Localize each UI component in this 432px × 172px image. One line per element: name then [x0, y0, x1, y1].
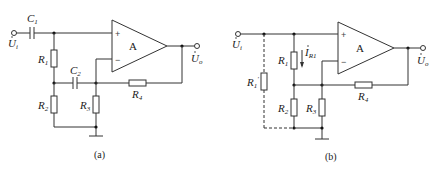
- input-terminal-a: [12, 31, 17, 36]
- resistor-r1-b: [291, 52, 297, 69]
- label-r3: R3: [79, 99, 91, 113]
- amp-label: A: [129, 40, 137, 52]
- label-r2: R2: [277, 102, 289, 116]
- resistor-r4-a: [129, 80, 146, 86]
- label-c1: C1: [27, 12, 38, 26]
- minus-sign: −: [115, 55, 120, 65]
- resistor-r2-a: [51, 96, 57, 113]
- amp-label: A: [356, 42, 364, 54]
- label-c2: C2: [70, 64, 81, 78]
- resistor-r2-b: [291, 99, 297, 116]
- opamp-b: [338, 22, 394, 74]
- current-arrow-icon: [300, 50, 304, 68]
- resistor-r1-a: [51, 50, 57, 67]
- label-r1: R1: [277, 54, 288, 68]
- output-terminal-b: [421, 46, 426, 51]
- resistor-r4-b: [355, 82, 372, 88]
- capacitor-c2: [73, 77, 77, 89]
- label-r1-prime: R1′: [246, 75, 259, 90]
- label-r2: R2: [37, 99, 49, 113]
- capacitor-c1: [30, 27, 34, 39]
- label-output: Uo: [191, 52, 203, 66]
- resistor-r3-b: [319, 99, 325, 116]
- caption-b: (b): [325, 151, 337, 163]
- label-r3: R3: [305, 102, 317, 116]
- plus-sign: +: [115, 29, 120, 39]
- plus-sign: +: [341, 30, 346, 40]
- minus-sign: −: [341, 57, 346, 67]
- label-r4: R4: [131, 88, 143, 102]
- input-terminal-b: [236, 32, 241, 37]
- label-r4: R4: [357, 90, 369, 104]
- caption-a: (a): [94, 149, 105, 161]
- label-current: IR1: [304, 46, 316, 60]
- resistor-r1-prime: [261, 73, 267, 90]
- label-r1: R1: [37, 53, 48, 67]
- panel-a: + − A C1 C2 R1 R2 R3 R4 Ui Uo (a): [8, 12, 203, 161]
- panel-b: + − A Ui Uo R1′ R1 IR1 R2 R3 R4 (b): [232, 22, 429, 163]
- resistor-r3-a: [93, 96, 99, 113]
- output-terminal-a: [195, 44, 200, 49]
- label-output: Uo: [417, 54, 429, 68]
- label-input: Ui: [232, 38, 242, 52]
- label-input: Ui: [8, 37, 18, 51]
- circuit-diagrams: + − A C1 C2 R1 R2 R3 R4 Ui Uo (a): [0, 0, 432, 172]
